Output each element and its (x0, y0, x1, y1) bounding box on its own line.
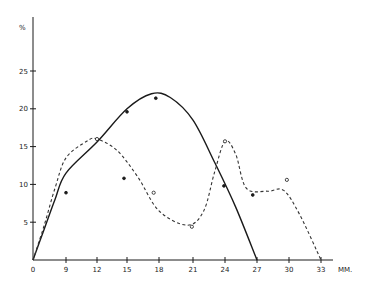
data-point (152, 191, 155, 194)
x-tick-label: 15 (123, 266, 132, 274)
x-tick-label: 21 (189, 266, 198, 274)
y-axis-label: % (19, 24, 26, 32)
x-tick-label: 9 (64, 266, 68, 274)
x-axis-label: MM. (338, 266, 352, 274)
data-points (65, 97, 289, 229)
axes: 091215182124273033510152025 (19, 17, 333, 274)
data-point (123, 177, 126, 180)
y-tick-label: 5 (24, 219, 28, 227)
data-point (154, 97, 157, 100)
data-point (126, 110, 129, 113)
data-point (190, 225, 193, 228)
dashed-curve (33, 138, 321, 260)
x-tick-label: 12 (93, 266, 102, 274)
x-tick-label: 0 (31, 266, 35, 274)
line-chart: 091215182124273033510152025 % MM. (0, 0, 365, 283)
y-tick-label: 15 (19, 143, 28, 151)
data-point (223, 185, 226, 188)
solid-curve (33, 93, 257, 260)
y-tick-label: 20 (19, 105, 28, 113)
series-group (33, 93, 321, 260)
data-point (223, 140, 226, 143)
data-point (65, 191, 68, 194)
data-point (95, 137, 98, 140)
x-tick-label: 24 (221, 266, 230, 274)
y-tick-label: 25 (19, 68, 28, 76)
x-tick-label: 33 (317, 266, 326, 274)
x-tick-label: 27 (253, 266, 262, 274)
x-tick-label: 18 (155, 266, 164, 274)
data-point (285, 178, 288, 181)
y-tick-label: 10 (19, 181, 28, 189)
data-point (251, 194, 254, 197)
x-tick-label: 30 (285, 266, 294, 274)
